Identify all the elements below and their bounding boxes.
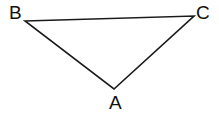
geometry-figure: B C A: [0, 0, 219, 114]
vertex-label-b: B: [9, 3, 22, 22]
vertex-label-c: C: [196, 3, 210, 22]
vertex-label-a: A: [109, 93, 122, 112]
